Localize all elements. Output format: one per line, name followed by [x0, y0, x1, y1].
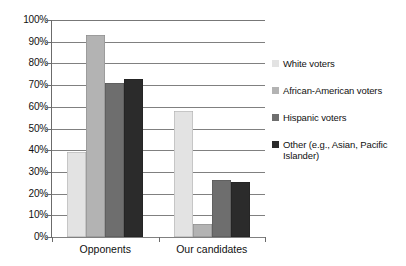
gridline	[52, 107, 265, 108]
gridline	[52, 129, 265, 130]
y-axis-tick-label: 90%	[8, 37, 48, 47]
x-axis-tick	[159, 237, 160, 242]
bar	[174, 111, 193, 237]
gridline	[52, 85, 265, 86]
y-axis-tick-label: 20%	[8, 189, 48, 199]
y-axis-tick-label: 100%	[8, 15, 48, 25]
legend-item: Hispanic voters	[272, 112, 406, 123]
legend-swatch-icon	[272, 141, 279, 148]
legend-swatch-icon	[272, 114, 279, 121]
x-axis-category-label: Opponents	[55, 243, 155, 255]
bar	[105, 83, 124, 237]
y-axis-tick-label: 30%	[8, 167, 48, 177]
y-axis-tick-label: 70%	[8, 80, 48, 90]
bar	[86, 35, 105, 237]
legend-item: African-American voters	[272, 85, 406, 96]
x-axis-tick	[265, 237, 266, 242]
x-axis-tick	[52, 237, 53, 242]
legend-item-label: White voters	[283, 58, 335, 69]
y-axis-tick-label: 10%	[8, 210, 48, 220]
bar	[67, 152, 86, 237]
x-axis-category-label: Our candidates	[162, 243, 262, 255]
y-axis-tick-label: 80%	[8, 58, 48, 68]
legend-swatch-icon	[272, 87, 279, 94]
y-axis-tick-label: 50%	[8, 124, 48, 134]
bar	[193, 224, 212, 237]
legend-swatch-icon	[272, 60, 279, 67]
legend-item-label: Hispanic voters	[283, 112, 346, 123]
y-axis-tick-label: 0%	[8, 232, 48, 242]
gridline	[52, 20, 265, 21]
chart-legend: White votersAfrican-American votersHispa…	[272, 58, 406, 161]
bar	[212, 180, 231, 238]
legend-item: Other (e.g., Asian, Pacific Islander)	[272, 139, 406, 161]
gridline	[52, 42, 265, 43]
gridline	[52, 150, 265, 151]
y-axis-tick-label: 60%	[8, 102, 48, 112]
bar	[231, 182, 250, 237]
y-axis-tick-label: 40%	[8, 145, 48, 155]
legend-item: White voters	[272, 58, 406, 69]
legend-item-label: Other (e.g., Asian, Pacific Islander)	[283, 139, 406, 161]
gridline	[52, 63, 265, 64]
bar-chart: 0%10%20%30%40%50%60%70%80%90%100% Oppone…	[0, 0, 406, 266]
plot-area	[52, 20, 265, 237]
legend-item-label: African-American voters	[283, 85, 382, 96]
bar	[124, 79, 143, 237]
